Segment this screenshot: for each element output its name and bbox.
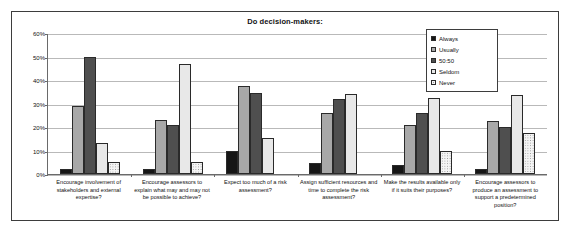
legend-label: 50:50 (439, 58, 454, 64)
bar (250, 93, 262, 174)
bar (143, 169, 155, 174)
bar-group (214, 34, 297, 174)
bar (309, 163, 321, 174)
y-axis-tick-label: 0% (36, 172, 45, 178)
x-axis-label: Encourage assessors to produce an assess… (464, 179, 547, 209)
y-axis-tick-label: 60% (33, 31, 45, 37)
legend-swatch-icon (431, 69, 436, 74)
y-axis-tick-label: 20% (33, 125, 45, 131)
x-axis-labels: Encourage involvement of stakeholders an… (47, 179, 547, 209)
bar (72, 106, 84, 174)
legend-swatch-icon (431, 58, 436, 63)
legend-item[interactable]: 50:50 (431, 55, 493, 66)
y-axis-tick-label: 10% (33, 149, 45, 155)
bar (60, 169, 72, 174)
bar (108, 162, 120, 174)
bar (167, 125, 179, 174)
x-axis-label: Assign sufficient resources and time to … (297, 179, 380, 209)
bar (238, 86, 250, 174)
legend-label: Always (439, 36, 458, 42)
y-axis-tick-label: 30% (33, 102, 45, 108)
bar (226, 151, 238, 175)
legend-swatch-icon (431, 47, 436, 52)
bar-group (131, 34, 214, 174)
legend-item[interactable]: Usually (431, 44, 493, 55)
legend-item[interactable]: Never (431, 77, 493, 88)
legend-swatch-icon (431, 36, 436, 41)
bar (191, 162, 203, 174)
bar (428, 98, 440, 174)
x-axis-label: Expect too much of a risk assessment? (214, 179, 297, 209)
bar (321, 113, 333, 174)
chart-frame: Do decision-makers: 0%10%20%30%40%50%60%… (11, 11, 559, 221)
bar (404, 125, 416, 174)
bar (487, 121, 499, 174)
y-axis-tick-label: 40% (33, 78, 45, 84)
bar (96, 143, 108, 174)
x-axis-label: Make the results available only if it su… (380, 179, 463, 209)
bar (155, 120, 167, 174)
bar (475, 169, 487, 174)
bar (345, 94, 357, 174)
bar (262, 138, 274, 174)
bar (333, 99, 345, 174)
legend-item[interactable]: Seldom (431, 66, 493, 77)
legend-item[interactable]: Always (431, 33, 493, 44)
bar (179, 64, 191, 174)
y-axis-tick-mark (45, 175, 48, 176)
x-axis-label: Encourage involvement of stakeholders an… (47, 179, 130, 209)
x-axis-label: Encourage assessors to explain what may … (130, 179, 213, 209)
bar (392, 165, 404, 174)
chart-title: Do decision-makers: (12, 17, 558, 26)
bar (523, 133, 535, 174)
legend-label: Never (439, 80, 455, 86)
y-axis-tick-label: 50% (33, 55, 45, 61)
bar (416, 113, 428, 174)
bar-group (48, 34, 131, 174)
chart-legend: AlwaysUsually50:50SeldomNever (426, 29, 498, 92)
bar (499, 127, 511, 174)
legend-label: Usually (439, 47, 459, 53)
legend-label: Seldom (439, 69, 459, 75)
bar-group (298, 34, 381, 174)
legend-swatch-icon (431, 80, 436, 85)
bar (440, 151, 452, 175)
bar (511, 95, 523, 174)
bar (84, 57, 96, 175)
